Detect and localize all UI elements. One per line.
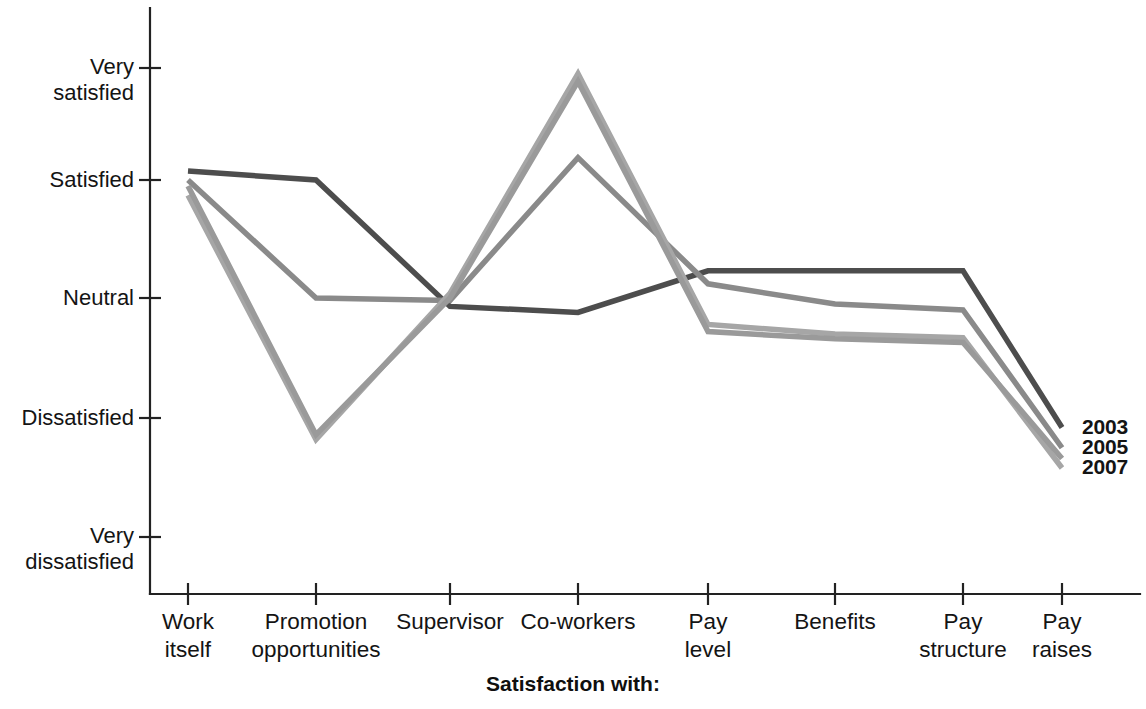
x-axis-title: Satisfaction with:: [0, 672, 1146, 696]
legend-label-2007: 2007: [1082, 455, 1128, 479]
series-lines: [188, 74, 1062, 468]
y-tick-label: Dissatisfied: [22, 405, 134, 431]
y-tick-label: Neutral: [63, 285, 134, 311]
chart-axes: [150, 8, 1140, 594]
y-tick-label: Very dissatisfied: [25, 523, 134, 575]
x-tick-label: Pay raises: [952, 608, 1146, 664]
series-line-2005: [188, 158, 1062, 448]
y-tick-label: Satisfied: [50, 167, 134, 193]
chart-canvas: [0, 0, 1146, 709]
satisfaction-line-chart: Very satisfiedSatisfiedNeutralDissatisfi…: [0, 0, 1146, 709]
y-tick-label: Very satisfied: [53, 54, 134, 106]
